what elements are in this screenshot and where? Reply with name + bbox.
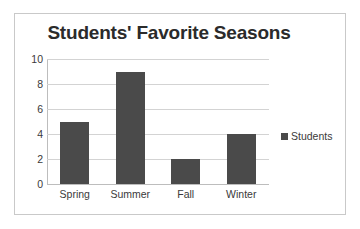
- gridline: [47, 184, 269, 185]
- bar-spring: [60, 122, 89, 185]
- bar-fall: [171, 159, 200, 184]
- y-axis-tick-label: 4: [19, 128, 43, 140]
- x-axis-label-winter: Winter: [214, 188, 270, 200]
- bar-slot: [214, 59, 270, 184]
- bar-slot: [47, 59, 103, 184]
- y-axis-tick-label: 10: [19, 53, 43, 65]
- x-axis-label-fall: Fall: [158, 188, 214, 200]
- plot-area: [47, 59, 269, 184]
- x-axis-label-spring: Spring: [47, 188, 103, 200]
- bar-winter: [227, 134, 256, 184]
- legend-label-students: Students: [291, 130, 332, 142]
- y-axis-tick-label: 2: [19, 153, 43, 165]
- legend-swatch-students: [281, 133, 288, 140]
- x-axis-category-labels: SpringSummerFallWinter: [47, 188, 269, 200]
- chart-title: Students' Favorite Seasons: [41, 22, 297, 44]
- y-axis-tick-label: 0: [19, 178, 43, 190]
- chart-legend: Students: [281, 130, 332, 142]
- bar-slot: [103, 59, 159, 184]
- y-axis-tick-label: 8: [19, 78, 43, 90]
- bar-summer: [116, 72, 145, 185]
- y-axis-tick-label: 6: [19, 103, 43, 115]
- bar-series-students: [47, 59, 269, 184]
- y-axis-tick-labels: 0246810: [15, 59, 43, 184]
- x-axis-label-summer: Summer: [103, 188, 159, 200]
- bar-slot: [158, 59, 214, 184]
- chart-card: Students' Favorite Seasons 0246810 Sprin…: [14, 13, 346, 215]
